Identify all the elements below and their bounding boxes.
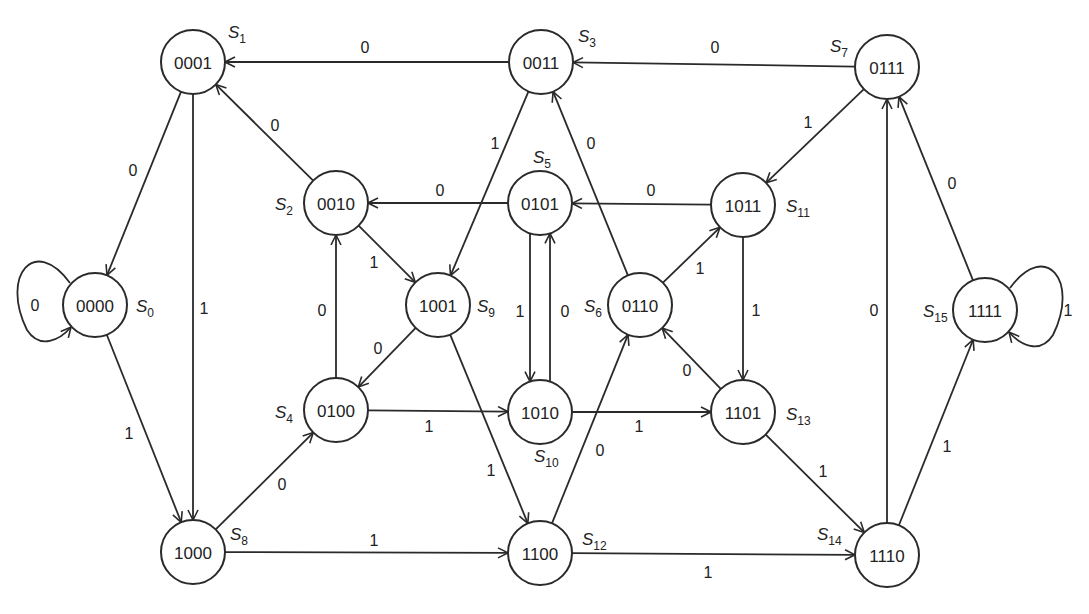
state-name-label: S8 [230, 525, 248, 548]
edge-s0-to-s8 [107, 335, 181, 523]
edge-label: 0 [561, 303, 570, 320]
edge-s7-to-s3 [573, 62, 855, 66]
state-node-s9: 1001S9 [406, 273, 495, 337]
edge-s8-to-s4 [216, 433, 314, 530]
state-transition-diagram: 0000S00001S10010S20011S30100S40101S50110… [0, 0, 1089, 614]
edge-label: 1 [370, 532, 379, 549]
state-name-label: S14 [817, 525, 842, 548]
edge-s11-to-s5 [572, 203, 711, 204]
state-name-label: S15 [923, 302, 948, 325]
state-name-label: S13 [786, 405, 811, 428]
state-code: 1101 [725, 404, 762, 423]
edge-s7-to-s11 [766, 89, 864, 183]
edges-layer [107, 62, 973, 555]
edge-label: 0 [374, 340, 383, 357]
edge-s1-to-s0 [107, 92, 181, 276]
edge-label: 0 [278, 476, 287, 493]
state-node-s10: 1010S10 [508, 380, 572, 470]
self-loop-label: 0 [31, 297, 40, 314]
state-node-s5: 0101S5 [508, 148, 572, 235]
state-code: 1110 [869, 547, 904, 566]
edge-label: 1 [487, 462, 496, 479]
edge-label: 0 [870, 302, 879, 319]
edge-label: 1 [804, 114, 813, 131]
edge-s2-to-s9 [359, 226, 416, 283]
edge-label: 1 [370, 254, 379, 271]
state-node-s4: 0100S4 [275, 378, 368, 442]
state-node-s3: 0011S3 [509, 27, 596, 94]
state-name-label: S5 [533, 148, 551, 171]
edge-label: 0 [587, 135, 596, 152]
state-node-s11: 1011S11 [711, 173, 810, 237]
labels-layer: 00010100011001011011101011101001 [31, 39, 1073, 581]
state-code: 0011 [523, 54, 560, 73]
state-code: 0010 [317, 195, 355, 214]
state-code: 0110 [622, 297, 659, 316]
state-node-s2: 0010S2 [275, 171, 368, 235]
state-code: 0001 [174, 54, 212, 73]
edge-label: 1 [696, 260, 705, 277]
state-code: 0100 [317, 402, 355, 421]
edge-label: 1 [516, 303, 525, 320]
edge-s13-to-s6 [662, 328, 721, 389]
edge-label: 1 [943, 438, 952, 455]
state-node-s15: 1111S15 [923, 278, 1017, 342]
state-name-label: S6 [584, 297, 602, 320]
state-name-label: S4 [275, 403, 293, 426]
state-name-label: S9 [477, 297, 495, 320]
edge-s15-to-s7 [899, 97, 973, 281]
state-node-s1: 0001S1 [161, 23, 246, 94]
state-name-label: S10 [534, 447, 559, 470]
edge-s8-to-s12 [225, 552, 508, 553]
edge-label: 1 [704, 564, 713, 581]
edge-label: 0 [647, 182, 656, 199]
state-node-s13: 1101S13 [711, 380, 811, 444]
state-name-label: S2 [275, 195, 293, 218]
edge-label: 0 [948, 175, 957, 192]
edge-label: 0 [318, 302, 327, 319]
edge-label: 0 [436, 182, 445, 199]
self-loop-label: 1 [1064, 302, 1073, 319]
state-code: 0111 [869, 59, 904, 78]
edge-label: 0 [361, 39, 370, 56]
edge-label: 0 [683, 362, 692, 379]
state-code: 0101 [521, 195, 559, 214]
edge-s2-to-s1 [216, 84, 313, 180]
edge-label: 1 [125, 425, 134, 442]
edge-label: 0 [129, 162, 138, 179]
edge-label: 0 [596, 442, 605, 459]
edge-label: 0 [271, 117, 280, 134]
state-code: 1000 [174, 544, 212, 563]
edge-label: 1 [635, 418, 644, 435]
state-code: 1001 [419, 297, 457, 316]
state-code: 1011 [725, 197, 762, 216]
edge-s14-to-s15 [899, 340, 973, 526]
state-name-label: S12 [582, 530, 607, 553]
state-name-label: S1 [228, 23, 246, 46]
state-name-label: S3 [578, 27, 596, 50]
edge-label: 1 [425, 418, 434, 435]
state-name-label: S7 [830, 37, 848, 60]
state-code: 0000 [76, 297, 114, 316]
edge-s4-to-s10 [368, 410, 508, 411]
edge-label: 1 [200, 300, 209, 317]
state-code: 1111 [968, 302, 1002, 321]
self-loops-layer [17, 262, 1062, 347]
state-code: 1010 [521, 404, 559, 423]
edge-s12-to-s14 [572, 553, 855, 555]
edge-label: 0 [711, 39, 720, 56]
edge-label: 1 [752, 302, 761, 319]
edge-s13-to-s14 [766, 435, 865, 533]
edge-label: 1 [819, 463, 828, 480]
edge-s9-to-s4 [358, 328, 415, 387]
state-diagram-canvas: 0000S00001S10010S20011S30100S40101S50110… [0, 0, 1089, 614]
state-node-s6: 0110S6 [584, 273, 672, 337]
state-code: 1100 [522, 545, 559, 564]
edge-label: 1 [491, 135, 500, 152]
state-node-s0: 0000S0 [63, 273, 154, 337]
edge-s6-to-s11 [663, 227, 720, 282]
state-name-label: S11 [786, 197, 810, 220]
state-name-label: S0 [136, 297, 154, 320]
